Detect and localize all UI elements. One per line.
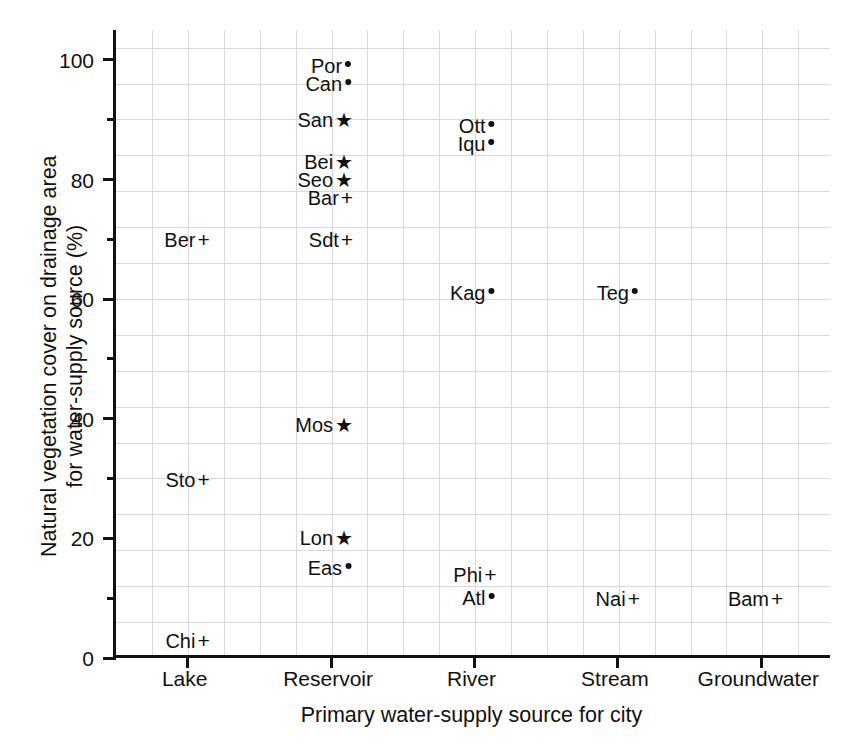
data-point-label: Phi <box>453 564 482 586</box>
marker-dot-icon <box>488 291 497 300</box>
y-axis-tick-minor <box>107 357 116 360</box>
y-axis-title-line-1: Natural vegetation cover on drainage are… <box>36 36 62 676</box>
y-axis-tick-major <box>103 178 116 181</box>
data-point-kag: Kag <box>450 283 497 303</box>
y-axis-tick-major <box>103 417 116 420</box>
data-point-sto: Sto+ <box>165 468 209 489</box>
data-point-san: San★ <box>298 110 354 130</box>
grid-line-vertical <box>583 30 584 655</box>
marker-plus-icon: + <box>197 630 209 651</box>
data-point-label: Eas <box>308 557 342 579</box>
grid-line-horizontal <box>116 155 830 156</box>
grid-line-horizontal <box>116 335 830 336</box>
data-point-nai: Nai+ <box>596 588 640 609</box>
data-point-label: Nai <box>596 588 626 610</box>
marker-plus-icon: + <box>341 187 353 208</box>
y-axis-title: Natural vegetation cover on drainage are… <box>36 36 88 676</box>
grid-line-horizontal <box>116 514 830 515</box>
x-axis-tick-label-reservoir: Reservoir <box>283 668 373 689</box>
grid-line-horizontal <box>116 550 830 551</box>
y-axis-tick-minor <box>107 118 116 121</box>
marker-plus-icon: + <box>197 468 209 489</box>
grid-line-vertical <box>798 30 799 655</box>
y-axis-title-line-2: for water-supply source (%) <box>62 36 88 676</box>
marker-plus-icon: + <box>484 564 496 585</box>
grid-line-horizontal <box>116 622 830 623</box>
data-point-chi: Chi+ <box>165 630 209 651</box>
marker-dot-icon <box>344 566 353 575</box>
grid-line-horizontal <box>116 478 830 479</box>
data-point-atl: Atl <box>462 588 496 608</box>
x-axis-title: Primary water-supply source for city <box>113 703 830 728</box>
x-axis-tick-label-lake: Lake <box>162 668 208 689</box>
data-point-eas: Eas <box>308 558 353 578</box>
x-axis-tick-labels: LakeReservoirRiverStreamGroundwater <box>113 668 830 698</box>
grid-line-vertical <box>655 30 656 655</box>
grid-line-horizontal <box>116 84 830 85</box>
data-point-label: Kag <box>450 282 486 304</box>
y-axis-tick-major <box>103 58 116 61</box>
grid-line-horizontal <box>116 443 830 444</box>
marker-star-icon: ★ <box>335 415 353 435</box>
data-point-lon: Lon★ <box>300 528 353 548</box>
data-point-label: Sto <box>165 468 195 490</box>
grid-line-horizontal <box>116 48 830 49</box>
marker-plus-icon: + <box>771 588 783 609</box>
grid-line-vertical <box>296 30 297 655</box>
marker-dot-icon <box>344 64 353 73</box>
data-point-label: Teg <box>597 282 629 304</box>
grid-line-horizontal <box>116 407 830 408</box>
grid-line-vertical <box>188 30 189 655</box>
grid-line-vertical <box>367 30 368 655</box>
data-point-bar: Bar+ <box>308 187 353 208</box>
grid-line-vertical <box>152 30 153 655</box>
marker-dot-icon <box>488 124 497 133</box>
data-point-label: Ber <box>164 229 195 251</box>
data-point-label: Mos <box>295 414 333 436</box>
y-axis-tick-major <box>103 298 116 301</box>
y-axis-tick-major <box>103 537 116 540</box>
grid-line-horizontal <box>116 263 830 264</box>
marker-star-icon: ★ <box>335 528 353 548</box>
x-axis-tick-label-groundwater: Groundwater <box>698 668 819 689</box>
data-point-label: Iqu <box>458 133 486 155</box>
y-axis-tick-minor <box>107 597 116 600</box>
grid-line-vertical <box>260 30 261 655</box>
y-axis-tick-minor <box>107 238 116 241</box>
grid-line-horizontal <box>116 227 830 228</box>
marker-plus-icon: + <box>341 229 353 250</box>
grid-line-vertical <box>547 30 548 655</box>
data-point-ber: Ber+ <box>164 229 209 250</box>
grid-line-vertical <box>511 30 512 655</box>
data-point-label: Bar <box>308 187 339 209</box>
plot-area: PorCanSan★OttIquBei★Seo★Bar+Ber+Sdt+KagT… <box>113 30 830 658</box>
grid-line-vertical <box>726 30 727 655</box>
marker-plus-icon: + <box>628 588 640 609</box>
data-point-label: Lon <box>300 527 333 549</box>
data-point-teg: Teg <box>597 283 640 303</box>
marker-plus-icon: + <box>197 229 209 250</box>
data-point-label: Bam <box>728 588 769 610</box>
data-point-can: Can <box>305 74 353 94</box>
data-point-iqu: Iqu <box>458 134 497 154</box>
grid-line-horizontal <box>116 191 830 192</box>
x-axis-tick-label-stream: Stream <box>581 668 649 689</box>
data-point-phi: Phi+ <box>453 564 496 585</box>
data-point-label: Sdt <box>309 229 339 251</box>
grid-line-vertical <box>762 30 763 655</box>
marker-dot-icon <box>488 596 497 605</box>
data-point-label: Can <box>305 73 342 95</box>
marker-dot-icon <box>488 142 497 151</box>
data-point-label: Chi <box>165 630 195 652</box>
data-point-label: Atl <box>462 587 485 609</box>
grid-line-vertical <box>224 30 225 655</box>
y-axis-tick-minor <box>107 477 116 480</box>
marker-star-icon: ★ <box>335 110 353 130</box>
grid-line-horizontal <box>116 371 830 372</box>
marker-dot-icon <box>631 291 640 300</box>
y-axis-tick-major <box>103 657 116 660</box>
data-point-bam: Bam+ <box>728 588 783 609</box>
data-point-label: San <box>298 109 334 131</box>
x-axis-tick-label-river: River <box>447 668 496 689</box>
grid-line-vertical <box>403 30 404 655</box>
